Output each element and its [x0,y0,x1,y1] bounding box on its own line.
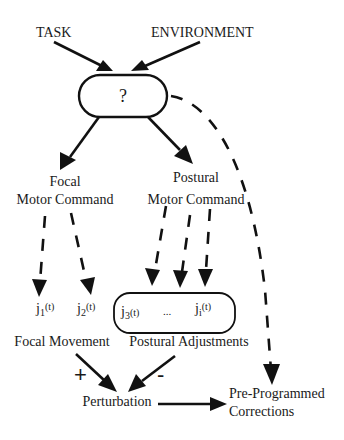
joint-ji-label: ji(t) [194,301,211,318]
postural-command-line1: Postural [173,170,219,185]
decision-node: ? [79,75,167,117]
minus-sign: - [157,362,164,387]
plus-sign: + [74,362,87,387]
task-label: TASK [36,25,71,40]
perturbation-label: Perturbation [82,394,151,409]
postural-adjustments-to-perturbation-arrow [128,356,175,392]
postural-to-ji-arrow [198,209,213,287]
corrections-line1: Pre-Programmed [229,386,325,401]
task-arrow [54,42,113,71]
focal-movement-label: Focal Movement [14,334,109,349]
focal-to-j1-arrow [32,216,47,297]
postural-to-j3-arrow [145,206,166,286]
focal-command-line1: Focal [49,174,80,189]
postural-command-line2: Motor Command [148,192,245,207]
question-mark-label: ? [119,86,127,106]
focal-to-j2-arrow [71,213,95,295]
postural-adjustments-label: Postural Adjustments [129,334,248,349]
joint-j3-label: j3(t) [120,304,139,321]
motor-control-diagram: TASK ENVIRONMENT ? Focal Motor Command P… [0,0,344,440]
to-focal-command-arrow [60,117,99,170]
joint-j2-label: j2(t) [76,301,95,318]
postural-joints-group: j3(t) ... ji(t) [114,293,235,333]
environment-arrow [131,42,200,71]
focal-command-line2: Motor Command [17,192,114,207]
to-postural-command-arrow [148,117,193,164]
corrections-line2: Corrections [229,404,294,419]
environment-label: ENVIRONMENT [151,25,254,40]
perturbation-to-corrections-arrow [158,397,227,411]
postural-to-jmid-arrow [173,215,190,288]
joint-ellipsis: ... [163,305,172,317]
joint-j1-label: j1(t) [35,301,54,318]
